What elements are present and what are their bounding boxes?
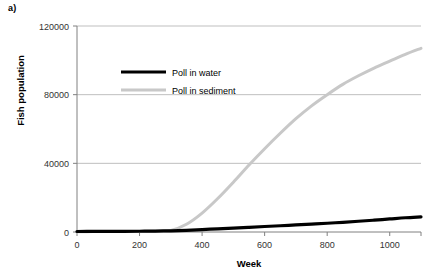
chart-legend: Poll in waterPoll in sediment [121, 68, 236, 96]
legend-label: Poll in sediment [172, 86, 236, 96]
axis-lines [77, 26, 421, 232]
y-tick-label: 120000 [39, 22, 69, 32]
y-axis-ticks: 04000080000120000 [39, 22, 77, 238]
x-tick-label: 800 [320, 240, 335, 250]
y-tick-label: 40000 [44, 159, 69, 169]
x-tick-label: 0 [74, 240, 79, 250]
x-tick-label: 600 [257, 240, 272, 250]
figure-panel-a: a) Fish population Week 0400008000012000… [0, 0, 433, 278]
series-line-poll-in-sediment [77, 48, 421, 231]
x-tick-label: 400 [195, 240, 210, 250]
series-line-poll-in-water [77, 217, 421, 232]
data-series-group [77, 48, 421, 231]
line-chart: 04000080000120000 02004006008001000 Poll… [0, 0, 433, 278]
legend-label: Poll in water [172, 68, 221, 78]
x-tick-label: 1000 [380, 240, 400, 250]
y-tick-label: 80000 [44, 90, 69, 100]
gridlines [77, 26, 421, 163]
x-axis-ticks: 02004006008001000 [74, 232, 421, 250]
x-tick-label: 200 [132, 240, 147, 250]
y-tick-label: 0 [64, 228, 69, 238]
